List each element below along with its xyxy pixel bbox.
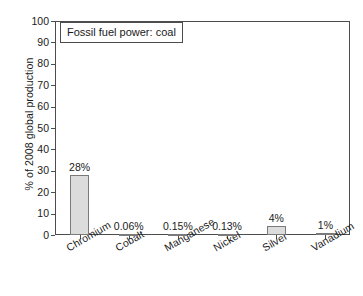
y-tick-mark [51, 235, 55, 236]
y-tick-label: 100 [19, 16, 49, 27]
bar-chromium [70, 175, 89, 235]
y-tick-mark [51, 214, 55, 215]
y-tick-label: 50 [19, 123, 49, 134]
bar-value-label: 1% [295, 220, 355, 231]
y-tick-mark [51, 107, 55, 108]
bar-cobalt [119, 234, 138, 236]
bar-value-label: 28% [50, 162, 110, 173]
y-tick-label: 10 [19, 208, 49, 219]
bar-silver [267, 226, 286, 235]
y-tick-mark [51, 21, 55, 22]
bar-vanadium [316, 233, 335, 235]
y-tick-mark [51, 149, 55, 150]
chart-title-box: Fossil fuel power: coal [60, 22, 183, 43]
y-tick-label: 90 [19, 37, 49, 48]
y-tick-label: 0 [19, 230, 49, 241]
y-tick-mark [51, 128, 55, 129]
y-tick-label: 60 [19, 101, 49, 112]
y-tick-mark [51, 85, 55, 86]
bar-manganese [168, 234, 187, 236]
y-tick-label: 30 [19, 165, 49, 176]
y-tick-label: 70 [19, 80, 49, 91]
bar-nickel [218, 234, 237, 236]
bar-chart: % of 2008 global production 010203040506… [0, 0, 363, 296]
plot-area [55, 21, 350, 235]
y-tick-mark [51, 192, 55, 193]
y-tick-mark [51, 42, 55, 43]
y-tick-label: 40 [19, 144, 49, 155]
y-tick-label: 20 [19, 187, 49, 198]
y-tick-mark [51, 64, 55, 65]
y-tick-label: 80 [19, 58, 49, 69]
